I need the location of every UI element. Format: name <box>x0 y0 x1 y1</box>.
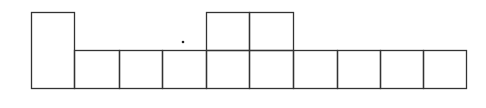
grid-cell <box>381 51 424 89</box>
grid-cell <box>424 51 467 89</box>
grid-cell <box>250 51 294 89</box>
grid-cell <box>120 51 163 89</box>
upper-cell <box>207 13 250 51</box>
grid-cell <box>294 51 338 89</box>
grid-cell <box>338 51 381 89</box>
upper-cell <box>250 13 294 51</box>
grid-cell <box>207 51 250 89</box>
grid-cell <box>163 51 207 89</box>
tall-cell <box>32 13 75 89</box>
grid-diagram <box>0 0 486 108</box>
grid-cell <box>75 51 120 89</box>
dot-marker <box>182 41 185 44</box>
